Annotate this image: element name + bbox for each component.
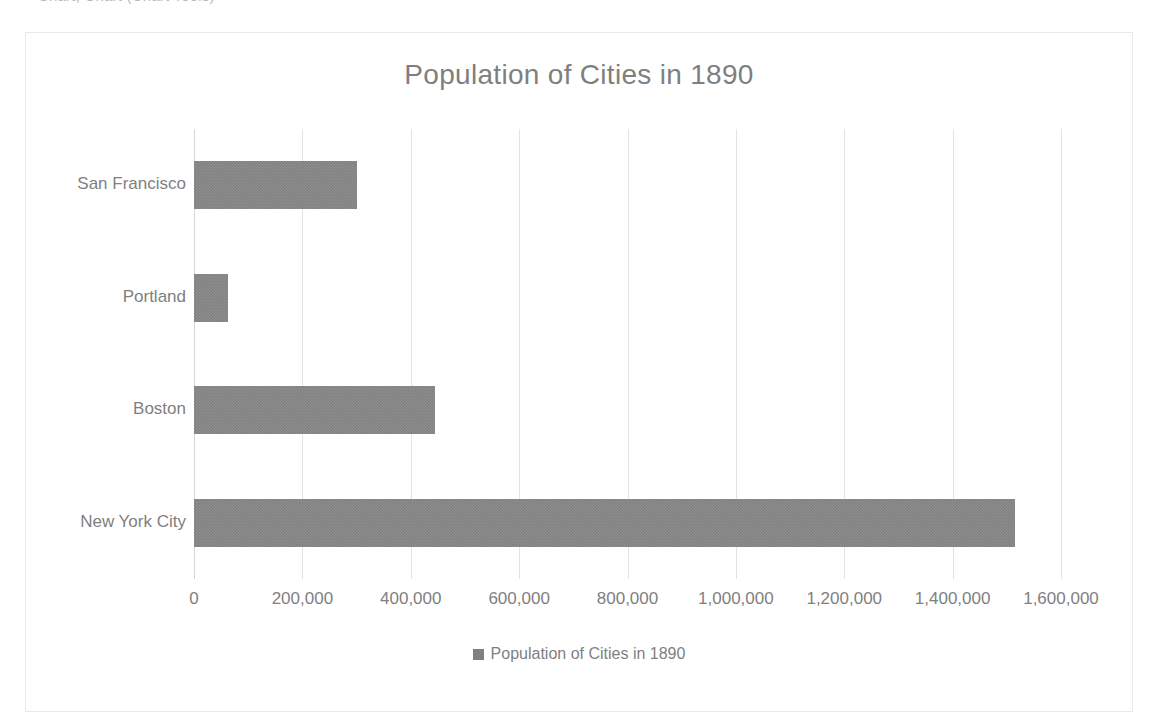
legend-swatch-icon	[473, 649, 484, 660]
x-axis-tick-label: 1,000,000	[698, 589, 774, 609]
x-axis-tick-labels: 0200,000400,000600,000800,0001,000,0001,…	[194, 589, 1061, 619]
legend-label: Population of Cities in 1890	[491, 645, 686, 663]
x-axis-tick-label: 1,400,000	[915, 589, 991, 609]
x-axis-tick-label: 800,000	[597, 589, 658, 609]
bar[interactable]	[194, 274, 228, 322]
x-axis-tick-label: 0	[189, 589, 198, 609]
chart-legend[interactable]: Population of Cities in 1890	[26, 645, 1132, 663]
x-axis-tick-label: 1,200,000	[806, 589, 882, 609]
y-axis-label: New York City	[16, 512, 186, 532]
y-axis-label: Boston	[16, 399, 186, 419]
x-axis-tick-label: 1,600,000	[1023, 589, 1099, 609]
bar[interactable]	[194, 386, 435, 434]
scan-top-text-sliver: Chart; Chart (Chart Tools)	[0, 0, 1162, 14]
x-axis-tick-label: 600,000	[488, 589, 549, 609]
bar[interactable]	[194, 499, 1015, 547]
gridline	[1061, 129, 1062, 579]
y-axis-label: Portland	[16, 287, 186, 307]
chart-title: Population of Cities in 1890	[26, 59, 1132, 91]
x-axis-tick-label: 400,000	[380, 589, 441, 609]
y-axis-label: San Francisco	[16, 174, 186, 194]
bar[interactable]	[194, 161, 357, 209]
scan-sliver-label: Chart; Chart (Chart Tools)	[38, 0, 215, 4]
chart-container[interactable]: Population of Cities in 1890 New York Ci…	[25, 32, 1133, 712]
plot-area	[194, 129, 1061, 579]
x-axis-tick-label: 200,000	[272, 589, 333, 609]
y-axis-category-labels: New York CityBostonPortlandSan Francisco	[26, 129, 186, 579]
